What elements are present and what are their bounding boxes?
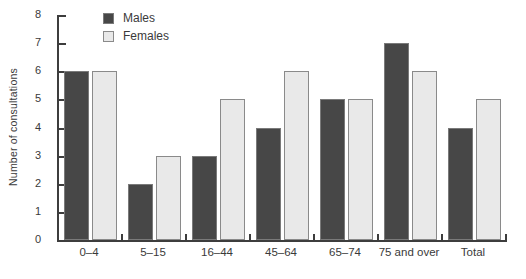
y-axis-labels: 012345678 bbox=[0, 15, 50, 240]
legend-swatch-males bbox=[103, 13, 114, 24]
legend: MalesFemales bbox=[103, 12, 169, 48]
y-tick-7 bbox=[59, 43, 66, 45]
bar-males-6 bbox=[384, 43, 409, 240]
x-tick-7 bbox=[505, 234, 507, 240]
y-tick-label-8: 8 bbox=[35, 7, 41, 21]
y-tick-label-1: 1 bbox=[35, 204, 41, 218]
legend-swatch-females bbox=[103, 31, 114, 42]
y-tick-8 bbox=[59, 15, 66, 17]
y-tick-label-3: 3 bbox=[35, 148, 41, 162]
legend-item-females: Females bbox=[103, 30, 169, 42]
x-label-4: 45–64 bbox=[249, 246, 313, 258]
x-tick-2 bbox=[185, 234, 187, 240]
x-label-2: 5–15 bbox=[121, 246, 185, 258]
x-tick-4 bbox=[313, 234, 315, 240]
x-tick-1 bbox=[121, 234, 123, 240]
y-tick-label-5: 5 bbox=[35, 91, 41, 105]
bar-females-4 bbox=[284, 71, 309, 240]
bar-males-2 bbox=[128, 184, 153, 240]
bar-females-6 bbox=[412, 71, 437, 240]
bar-males-1 bbox=[64, 71, 89, 240]
bar-females-2 bbox=[156, 156, 181, 240]
bar-males-4 bbox=[256, 128, 281, 241]
y-tick-label-4: 4 bbox=[35, 120, 41, 134]
x-tick-5 bbox=[377, 234, 379, 240]
plot-area: MalesFemales bbox=[57, 15, 507, 242]
x-label-1: 0–4 bbox=[57, 246, 121, 258]
x-tick-3 bbox=[249, 234, 251, 240]
x-label-3: 16–44 bbox=[185, 246, 249, 258]
bar-males-3 bbox=[192, 156, 217, 240]
bar-females-5 bbox=[348, 99, 373, 240]
y-tick-label-2: 2 bbox=[35, 176, 41, 190]
bar-males-5 bbox=[320, 99, 345, 240]
x-label-6: 75 and over bbox=[377, 246, 441, 258]
bar-females-3 bbox=[220, 99, 245, 240]
y-tick-label-6: 6 bbox=[35, 63, 41, 77]
x-label-5: 65–74 bbox=[313, 246, 377, 258]
y-tick-label-7: 7 bbox=[35, 35, 41, 49]
x-axis-labels: 0–45–1516–4445–6465–7475 and overTotal bbox=[57, 246, 505, 264]
x-label-7: Total bbox=[441, 246, 505, 258]
x-tick-6 bbox=[441, 234, 443, 240]
bar-females-1 bbox=[92, 71, 117, 240]
legend-label-females: Females bbox=[123, 29, 169, 43]
legend-label-males: Males bbox=[123, 11, 155, 25]
bar-females-7 bbox=[476, 99, 501, 240]
consultations-bar-chart: Number of consultations 012345678 MalesF… bbox=[0, 0, 526, 279]
bar-males-7 bbox=[448, 128, 473, 241]
y-tick-label-0: 0 bbox=[35, 232, 41, 246]
legend-item-males: Males bbox=[103, 12, 169, 24]
